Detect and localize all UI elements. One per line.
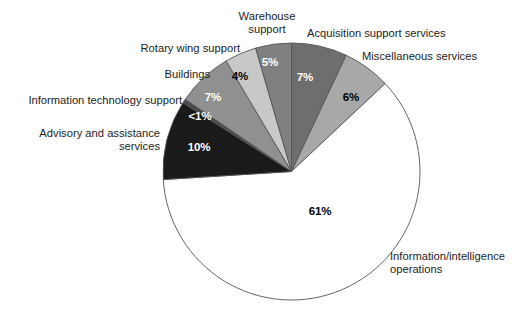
slice-value-warehouse-support: 5% bbox=[262, 57, 278, 69]
slice-value-information-technology-support: <1% bbox=[188, 111, 211, 123]
category-label-miscellaneous-services: Miscellaneous services bbox=[362, 50, 477, 63]
category-label-acquisition-support-services: Acquisition support services bbox=[307, 27, 446, 40]
slice-value-buildings: 7% bbox=[205, 92, 221, 104]
slice-value-acquisition-support-services: 7% bbox=[297, 72, 313, 84]
category-label-advisory-and-assistance-services: Advisory and assistance services bbox=[39, 127, 160, 154]
category-label-information-intelligence-operations: Information/intelligence operations bbox=[390, 250, 505, 277]
category-label-rotary-wing-support: Rotary wing support bbox=[141, 42, 241, 55]
slice-value-miscellaneous-services: 6% bbox=[343, 92, 359, 104]
slice-value-rotary-wing-support: 4% bbox=[232, 71, 248, 83]
slice-value-information-intelligence-operations: 61% bbox=[309, 206, 332, 218]
slice-value-advisory-and-assistance-services: 10% bbox=[188, 142, 211, 154]
category-label-warehouse-support: Warehouse support bbox=[239, 10, 296, 37]
pie-chart: 7% 6% 61% 10% <1% 7% 4% 5% Warehouse sup… bbox=[0, 0, 525, 314]
category-label-buildings: Buildings bbox=[165, 68, 210, 81]
pie-slice-group bbox=[163, 43, 420, 300]
category-label-information-technology-support: Information technology support bbox=[28, 94, 182, 107]
